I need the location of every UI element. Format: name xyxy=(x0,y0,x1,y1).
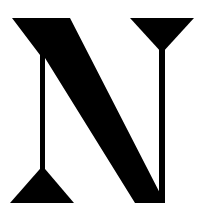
letter-n-logo: N xyxy=(0,0,210,210)
top-right-serif xyxy=(130,18,194,53)
n-logo-icon: N xyxy=(0,0,210,210)
left-stem xyxy=(40,52,45,170)
bottom-left-serif xyxy=(10,166,74,203)
right-stem xyxy=(159,48,165,203)
